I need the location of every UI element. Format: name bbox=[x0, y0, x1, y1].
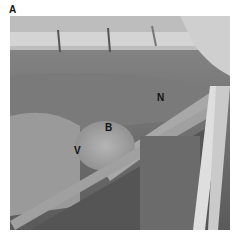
radiograph-image bbox=[10, 16, 230, 230]
panel-label: A bbox=[9, 4, 16, 15]
annotation-b: B bbox=[105, 122, 112, 133]
radiograph-graphic bbox=[10, 16, 230, 230]
annotation-v: V bbox=[74, 145, 81, 156]
annotation-n: N bbox=[157, 92, 164, 103]
